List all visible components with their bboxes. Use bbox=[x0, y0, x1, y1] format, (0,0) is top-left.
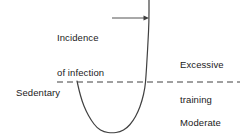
j-curve-figure: Sedentary Incidence of infection Excessi… bbox=[0, 0, 240, 137]
incidence-label-line-2: of infection bbox=[57, 67, 104, 79]
sedentary-label: Sedentary bbox=[5, 75, 60, 110]
annotation-arrow-head-icon bbox=[144, 16, 150, 21]
moderate-regular-exercise-label: Moderate regular exercise bbox=[180, 94, 221, 137]
incidence-label-line-1: Incidence bbox=[57, 32, 104, 44]
incidence-of-infection-label: Incidence of infection bbox=[57, 9, 104, 101]
moderate-label-line-1: Moderate bbox=[180, 117, 221, 129]
excessive-label-line-1: Excessive bbox=[180, 59, 224, 71]
sedentary-label-text: Sedentary bbox=[16, 87, 60, 98]
